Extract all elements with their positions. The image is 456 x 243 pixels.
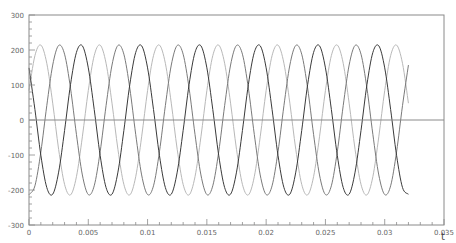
- y-tick-label: 0: [20, 117, 24, 125]
- y-tick-label: -200: [8, 187, 24, 195]
- x-tick-label: 0.025: [315, 229, 335, 237]
- y-tick-label: 100: [11, 82, 24, 90]
- x-tick-label: 0.03: [377, 229, 393, 237]
- x-tick-label: 0.02: [258, 229, 274, 237]
- x-tick-label: 0.015: [197, 229, 217, 237]
- y-tick-label: 200: [11, 47, 24, 55]
- x-axis-tick-labels: 00.0050.010.0150.020.0250.030.035: [27, 229, 454, 237]
- x-tick-label: 0.01: [140, 229, 156, 237]
- y-axis-tick-labels: 3002001000-100-200-300: [8, 12, 24, 230]
- line-chart: 3002001000-100-200-300 00.0050.010.0150.…: [0, 0, 456, 243]
- y-tick-label: -300: [8, 222, 24, 230]
- x-tick-label: 0: [27, 229, 31, 237]
- x-axis-label: t: [441, 231, 445, 242]
- y-tick-label: -100: [8, 152, 24, 160]
- x-tick-label: 0.005: [78, 229, 98, 237]
- y-tick-label: 300: [11, 12, 24, 20]
